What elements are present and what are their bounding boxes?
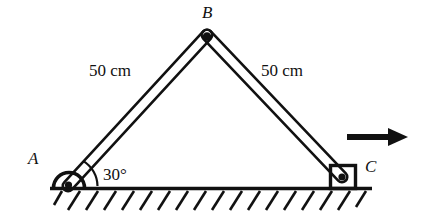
diagram-canvas	[0, 0, 421, 223]
velocity-arrow-at-c	[347, 128, 408, 146]
pin-joint-b	[203, 32, 211, 40]
pin-dot-c	[338, 173, 345, 180]
angle-label-a: 30°	[103, 166, 127, 183]
point-label-b: B	[202, 4, 212, 21]
member-bc	[202, 30, 347, 182]
pin-dot-a	[65, 181, 72, 188]
length-label-ab: 50 cm	[89, 62, 131, 79]
point-label-a: A	[28, 150, 38, 167]
mechanics-diagram: B A C 50 cm 50 cm 30°	[0, 0, 421, 223]
member-ab	[63, 30, 212, 191]
ground-hatching	[54, 191, 366, 210]
point-label-c: C	[365, 158, 376, 175]
length-label-bc: 50 cm	[261, 62, 303, 79]
